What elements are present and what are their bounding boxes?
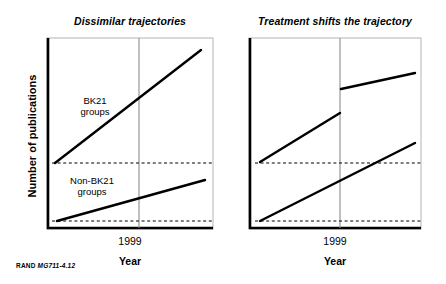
x-tick-label-right: 1999 [248, 235, 422, 247]
plot-frame-left [47, 38, 213, 229]
credit-prefix: RAND [16, 262, 36, 269]
panel-title-right: Treatment shifts the trajectory [246, 15, 424, 27]
series-line-treated-pre [260, 113, 340, 162]
panel-right [249, 38, 421, 229]
plot-frame-right [249, 38, 421, 229]
series-label-non-bk21: Non-BK21 groups [52, 176, 132, 198]
x-tick-label-left: 1999 [45, 235, 215, 247]
series-label-non-bk21-line2: groups [52, 187, 132, 198]
series-line-comparison [260, 143, 415, 221]
y-axis-label: Number of publications [26, 56, 38, 216]
credit-id: MG711-4.12 [38, 262, 76, 269]
x-axis-label-right: Year [248, 255, 422, 267]
panel-left [47, 38, 213, 229]
series-label-bk21-line2: groups [62, 107, 128, 118]
series-line-treated-post [341, 73, 415, 89]
panel-title-left: Dissimilar trajectories [45, 15, 215, 27]
series-label-bk21: BK21 groups [62, 96, 128, 118]
figure-credit: RAND MG711-4.12 [16, 262, 75, 269]
figure-container: Dissimilar trajectories Treatment shifts… [0, 0, 446, 284]
